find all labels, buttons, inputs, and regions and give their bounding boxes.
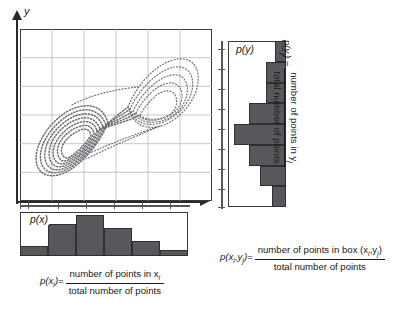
formula-px: p(xi)= number of points in xi total numb… — [40, 268, 164, 297]
y-axis-label: y — [24, 6, 30, 17]
px-histogram-bar — [132, 241, 160, 256]
py-axis-tick — [218, 89, 225, 90]
px-axis-tick — [58, 202, 59, 209]
formula-pxy-lhs: p(xi,yj)= — [220, 251, 255, 265]
px-axis-tick — [86, 202, 87, 209]
formula-px-numerator: number of points in xi — [66, 268, 164, 283]
py-axis-tick — [218, 169, 225, 170]
formula-px-fraction: number of points in xi total number of p… — [66, 268, 164, 297]
formula-py-denominator: total number of points — [271, 68, 285, 166]
py-axis-tick — [218, 207, 225, 208]
formula-pxy-denominator: total number of points — [255, 259, 385, 273]
px-axis-tick — [28, 202, 29, 209]
px-histogram-bar — [48, 224, 76, 256]
formula-px-denominator: total number of points — [66, 283, 164, 297]
figure-canvas: y .traj{fill:none;stroke:#6e6 — [0, 0, 417, 318]
formula-pxy-numerator: number of points in box (xi,yj) — [255, 244, 385, 259]
y-axis-arrow-icon — [12, 10, 22, 20]
y-axis-line — [16, 18, 18, 204]
px-axis-tick — [114, 202, 115, 209]
px-axis-tick — [20, 202, 21, 209]
formula-py-fraction: number of points in yj total number of p… — [271, 68, 300, 166]
px-histogram-bar — [160, 250, 188, 256]
py-axis-tick — [218, 109, 225, 110]
px-axis-tick — [142, 202, 143, 209]
py-axis-tick — [218, 69, 225, 70]
px-histogram-panel: p(x) — [20, 212, 188, 256]
formula-pxy: p(xi,yj)= number of points in box (xi,yj… — [220, 244, 385, 273]
px-histogram-bar — [104, 228, 132, 256]
py-axis-line — [221, 41, 223, 209]
formula-py-lhs: p(yj) = — [278, 40, 292, 68]
main-attractor-panel: .traj{fill:none;stroke:#6e6e74;stroke-wi… — [20, 29, 212, 201]
py-axis-tick — [218, 129, 225, 130]
formula-px-lhs: p(xi)= — [40, 275, 66, 289]
attractor-trajectory: .traj{fill:none;stroke:#6e6e74;stroke-wi… — [20, 29, 212, 201]
formula-py: p(yj) = number of points in yj total num… — [271, 40, 300, 210]
py-axis-tick — [218, 189, 225, 190]
x-axis-line — [16, 201, 202, 203]
px-axis-tick — [170, 202, 171, 209]
formula-pxy-fraction: number of points in box (xi,yj) total nu… — [255, 244, 385, 273]
px-histogram-bar — [20, 246, 48, 256]
formula-py-numerator: number of points in yj — [285, 68, 300, 166]
px-plot-label: p(x) — [29, 213, 49, 225]
py-axis-tick — [218, 49, 225, 50]
px-axis-line — [20, 205, 190, 207]
py-plot-label: p(y) — [236, 43, 254, 55]
py-axis-tick — [218, 149, 225, 150]
px-histogram-bar — [76, 215, 104, 256]
